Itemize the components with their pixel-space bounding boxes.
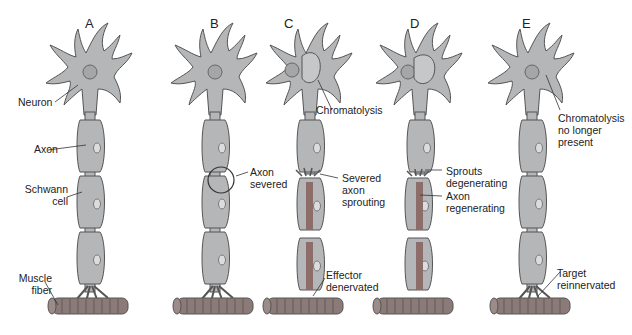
panel-letter-c: C [284, 16, 293, 31]
panel-letter-e: E [522, 16, 531, 31]
label-severed-axon-sprouting: Severed axon sprouting [342, 172, 385, 208]
nerve-regeneration-diagram [0, 0, 632, 335]
panel-a [46, 23, 132, 314]
panel-letter-a: A [85, 16, 94, 31]
label-effector-denervated: Effector denervated [326, 269, 379, 293]
label-axon-regenerating: Axon regenerating [446, 190, 505, 214]
panel-letter-d: D [410, 16, 419, 31]
label-chromatolysis: Chromatolysis [316, 104, 383, 116]
label-sprouts-degenerating: Sprouts degenerating [446, 165, 507, 189]
label-target-reinnervated: Target reinnervated [557, 267, 615, 291]
label-neuron: Neuron [18, 96, 52, 108]
panel-b [171, 23, 257, 314]
label-schwann-cell: Schwann cell [24, 183, 68, 207]
label-chromatolysis-no-longer-present: Chromatolysis no longer present [558, 112, 625, 148]
label-muscle-fiber: Muscle fiber [14, 272, 52, 296]
label-axon: Axon [34, 143, 58, 155]
label-axon-severed: Axon severed [250, 166, 287, 190]
panel-letter-b: B [210, 16, 219, 31]
